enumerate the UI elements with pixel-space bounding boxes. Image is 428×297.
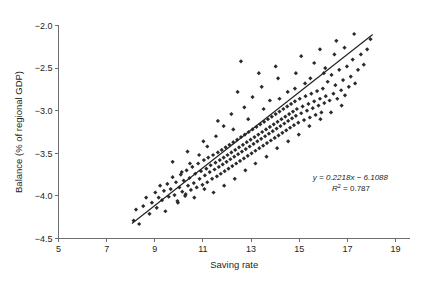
data-point xyxy=(303,94,307,98)
data-point xyxy=(242,105,246,109)
data-point xyxy=(229,112,233,116)
data-point xyxy=(158,184,162,188)
data-point xyxy=(240,149,244,153)
data-point xyxy=(265,141,269,145)
data-point xyxy=(225,153,229,157)
data-point xyxy=(256,132,260,136)
data-point xyxy=(255,139,259,143)
data-point xyxy=(192,196,196,200)
data-point xyxy=(311,106,315,110)
data-point xyxy=(281,107,285,111)
data-point xyxy=(253,149,257,153)
data-point xyxy=(262,107,266,111)
data-point xyxy=(211,190,215,194)
data-point xyxy=(212,167,216,171)
data-point xyxy=(295,107,299,111)
data-point xyxy=(200,183,204,187)
data-point xyxy=(157,196,161,200)
y-tick-label: −2.5 xyxy=(35,63,53,73)
data-point xyxy=(294,114,298,118)
data-point xyxy=(171,160,175,164)
data-point xyxy=(249,138,253,142)
data-point xyxy=(314,113,318,117)
data-point xyxy=(276,76,280,80)
data-point xyxy=(290,116,294,120)
data-point xyxy=(331,92,335,96)
data-point xyxy=(341,78,345,82)
data-point xyxy=(192,181,196,185)
data-point xyxy=(171,175,175,179)
data-point xyxy=(342,46,346,50)
data-point xyxy=(222,184,226,188)
data-point xyxy=(312,99,316,103)
data-point xyxy=(260,85,264,89)
data-point xyxy=(275,126,279,130)
data-point xyxy=(233,177,237,181)
data-point xyxy=(280,131,284,135)
data-point xyxy=(277,97,281,101)
data-point xyxy=(353,81,357,85)
data-point xyxy=(232,155,236,159)
data-point xyxy=(190,165,194,169)
data-point xyxy=(312,61,316,65)
y-tick-label: −3.5 xyxy=(35,149,53,159)
data-point xyxy=(349,75,353,79)
data-point xyxy=(299,111,303,115)
data-point xyxy=(301,104,305,108)
data-point xyxy=(208,170,212,174)
data-point xyxy=(144,196,148,200)
data-point xyxy=(233,148,237,152)
data-point xyxy=(221,162,225,166)
data-point xyxy=(215,174,219,178)
data-point xyxy=(241,143,245,147)
data-point xyxy=(214,134,218,138)
regression-equation: y = 0.2218x − 6.1088 xyxy=(312,173,389,182)
data-point xyxy=(286,119,290,123)
data-point xyxy=(250,95,254,99)
data-point xyxy=(137,222,141,226)
data-point xyxy=(204,167,208,171)
r-squared-label: R2 = 0.787 xyxy=(332,183,371,193)
data-point xyxy=(365,47,369,51)
data-point xyxy=(147,212,151,216)
data-point xyxy=(163,209,167,213)
data-point xyxy=(291,109,295,113)
data-point xyxy=(141,204,145,208)
data-point xyxy=(245,140,249,144)
data-point xyxy=(326,80,330,84)
data-point xyxy=(276,133,280,137)
data-point xyxy=(271,129,275,133)
data-point xyxy=(153,190,157,194)
data-point xyxy=(203,173,207,177)
x-axis-title: Saving rate xyxy=(210,259,258,270)
data-point xyxy=(223,169,227,173)
data-point xyxy=(275,120,279,124)
data-point xyxy=(299,54,303,58)
data-point xyxy=(274,64,278,68)
data-point xyxy=(356,68,360,72)
data-point xyxy=(318,117,322,121)
data-point xyxy=(172,193,176,197)
data-point xyxy=(236,152,240,156)
data-point xyxy=(264,127,268,131)
data-point xyxy=(347,85,351,89)
x-tick-label: 17 xyxy=(342,244,352,254)
data-point xyxy=(197,153,201,157)
data-point xyxy=(237,145,241,149)
data-point xyxy=(201,139,205,143)
data-point xyxy=(202,187,206,191)
data-point xyxy=(319,110,323,114)
data-point xyxy=(195,185,199,189)
data-point xyxy=(219,172,223,176)
x-tick-label: 5 xyxy=(56,244,61,254)
data-point xyxy=(269,138,273,142)
data-point xyxy=(246,117,250,121)
y-axis-ticks: −2.0−2.5−3.0−3.5−4.0−4.5 xyxy=(35,21,59,244)
x-axis-ticks: 5791113151719 xyxy=(56,239,401,255)
data-point xyxy=(284,128,288,132)
data-point xyxy=(286,139,290,143)
data-point xyxy=(134,207,138,211)
data-point xyxy=(186,184,190,188)
data-point xyxy=(273,136,277,140)
data-point xyxy=(217,165,221,169)
